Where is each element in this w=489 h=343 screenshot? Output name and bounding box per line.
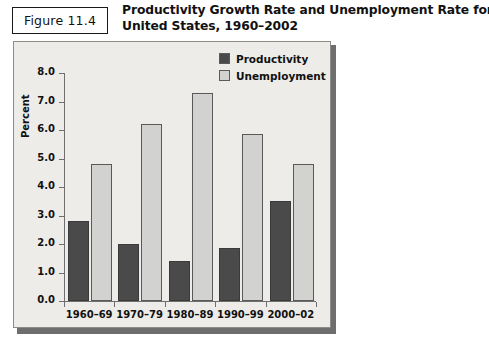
y-axis-tick-label: 5.0 [37, 152, 55, 163]
legend-label-productivity: Productivity [236, 53, 308, 65]
bar-productivity-1970–79 [118, 244, 139, 301]
x-axis-category-label: 1980–89 [165, 309, 215, 320]
bar-unemployment-1990–99 [242, 134, 263, 301]
y-axis-tick: 8.0 [59, 73, 64, 74]
y-axis-line [64, 73, 65, 302]
figure-title-line-1: Productivity Growth Rate and Unemploymen… [122, 3, 484, 19]
y-axis-tick-label: 7.0 [37, 95, 55, 106]
y-axis-tick: 7.0 [59, 102, 64, 103]
x-axis-line [64, 301, 316, 302]
y-axis-tick-label: 3.0 [37, 209, 55, 220]
bar-productivity-1980–89 [169, 261, 190, 301]
y-axis-tick-label: 4.0 [37, 180, 55, 191]
bar-unemployment-1970–79 [141, 124, 162, 301]
y-axis-tick-label: 1.0 [37, 266, 55, 277]
legend-swatch-dark-icon [219, 53, 230, 64]
bar-productivity-1960–69 [68, 221, 89, 301]
y-axis-title: Percent [20, 94, 31, 138]
bar-productivity-2000–02 [270, 201, 291, 301]
figure-number-label: Figure 11.4 [24, 13, 96, 28]
y-axis-tick: 5.0 [59, 159, 64, 160]
y-axis-tick: 4.0 [59, 187, 64, 188]
y-axis-tick-label: 0.0 [37, 294, 55, 305]
x-axis-category-label: 1970–79 [114, 309, 164, 320]
y-axis-tick-label: 6.0 [37, 123, 55, 134]
x-axis-category-label: 2000–02 [266, 309, 316, 320]
y-axis-tick: 2.0 [59, 244, 64, 245]
x-axis-tick [114, 302, 115, 307]
bar-group [167, 73, 213, 301]
bar-group [217, 73, 263, 301]
x-axis-tick [266, 302, 267, 307]
x-axis-tick [316, 302, 317, 307]
plot-area: 8.07.06.05.04.03.02.01.00.0 1960–691970–… [64, 73, 316, 302]
x-axis-tick [64, 302, 65, 307]
figure-number-box: Figure 11.4 [12, 7, 108, 34]
bar-group [116, 73, 162, 301]
figure-title: Productivity Growth Rate and Unemploymen… [122, 3, 484, 34]
figure-header: Figure 11.4 Productivity Growth Rate and… [0, 0, 489, 42]
x-axis-tick [215, 302, 216, 307]
x-axis-category-label: 1960–69 [64, 309, 114, 320]
chart-panel: Productivity Unemployment Percent 8.07.0… [13, 41, 331, 328]
x-axis-tick [165, 302, 166, 307]
bar-unemployment-1980–89 [192, 93, 213, 301]
bar-unemployment-2000–02 [293, 164, 314, 301]
y-axis-tick: 3.0 [59, 216, 64, 217]
bar-productivity-1990–99 [219, 248, 240, 301]
figure-title-line-2: United States, 1960–2002 [122, 19, 484, 35]
y-axis-tick-label: 2.0 [37, 237, 55, 248]
x-axis-category-label: 1990–99 [215, 309, 265, 320]
bar-group [66, 73, 112, 301]
y-axis-tick: 6.0 [59, 130, 64, 131]
legend-item-productivity: Productivity [219, 51, 326, 66]
bar-group [268, 73, 314, 301]
y-axis-tick-label: 8.0 [37, 66, 55, 77]
bar-unemployment-1960–69 [91, 164, 112, 301]
y-axis-tick: 1.0 [59, 273, 64, 274]
